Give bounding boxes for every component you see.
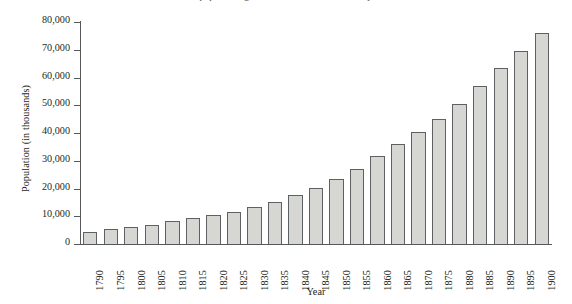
bar-1890 (494, 68, 508, 244)
bar-1885 (473, 86, 487, 244)
y-tick-label: 10,000 (42, 208, 70, 219)
bar-1855 (350, 169, 364, 244)
y-tick-label: 20,000 (42, 181, 70, 192)
bar-series (80, 22, 552, 244)
y-tick-label: 80,000 (42, 14, 70, 25)
y-axis-title: Population (in thousands) (20, 28, 31, 250)
bar-1805 (145, 225, 159, 244)
y-tick-label: 40,000 (42, 125, 70, 136)
bar-1810 (165, 221, 179, 244)
bar-1865 (391, 144, 405, 244)
y-tick-0: 0 (74, 244, 80, 245)
bar-1900 (535, 33, 549, 244)
clipped-caption-text: population growth in the nineteenth cent… (0, 0, 572, 1)
y-tick-label: 60,000 (42, 70, 70, 81)
y-tick-label: 70,000 (42, 42, 70, 53)
bar-1880 (452, 104, 466, 244)
bar-1850 (329, 179, 343, 244)
bar-1795 (104, 229, 118, 244)
bar-1895 (514, 51, 528, 244)
x-axis-line (80, 244, 552, 245)
bar-1845 (309, 188, 323, 244)
y-tick-label: 30,000 (42, 153, 70, 164)
population-bar-chart-figure: population growth in the nineteenth cent… (0, 0, 572, 304)
bar-1790 (83, 232, 97, 244)
bar-1875 (432, 119, 446, 244)
x-axis-title: Year (80, 286, 552, 297)
y-tick-label: 0 (65, 236, 70, 247)
clipped-caption-sliver: population growth in the nineteenth cent… (0, 0, 572, 3)
bar-1835 (268, 202, 282, 244)
bar-1825 (227, 212, 241, 244)
plot-area: 010,00020,00030,00040,00050,00060,00070,… (80, 22, 552, 244)
y-tick-label: 50,000 (42, 97, 70, 108)
bar-1815 (186, 218, 200, 244)
bar-1840 (288, 195, 302, 244)
bar-1800 (124, 227, 138, 244)
bar-1830 (247, 207, 261, 244)
bar-1870 (411, 132, 425, 244)
bar-1820 (206, 215, 220, 244)
bar-1860 (370, 156, 384, 244)
